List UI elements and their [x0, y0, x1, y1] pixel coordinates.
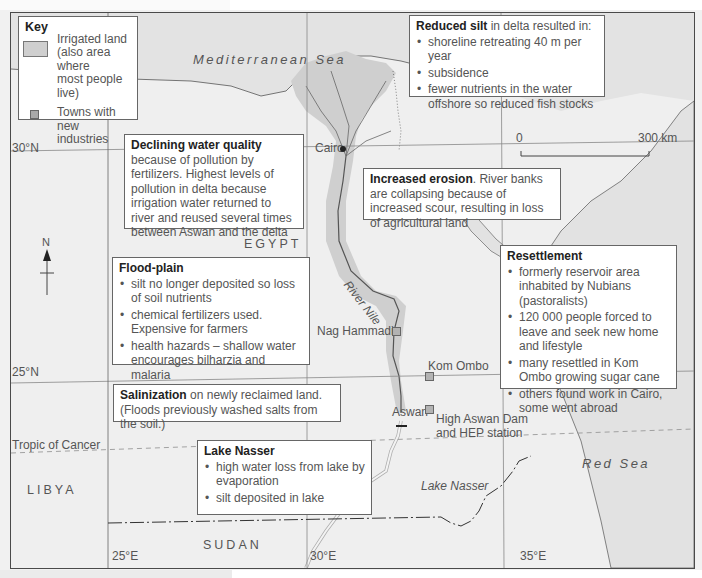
flood-plain-title: Flood-plain [119, 261, 184, 275]
scale-bar [521, 151, 649, 156]
key-label-towns: Towns with new industries [57, 106, 131, 147]
lon-25-label: 25°E [112, 549, 138, 563]
resettlement-box: Resettlement formerly reservoir area inh… [500, 245, 677, 389]
resettlement-title: Resettlement [507, 249, 582, 263]
page-top-margin [0, 0, 702, 10]
north-label: N [42, 236, 50, 248]
scale-end-label: 300 km [638, 131, 677, 145]
nag-hammadi-marker [392, 327, 401, 336]
list-item: many resettled in Kom Ombo growing sugar… [507, 356, 670, 385]
lat-25-label: 25°N [12, 365, 39, 379]
lat-30-label: 30°N [12, 141, 39, 155]
list-item: silt no longer deposited so loss of soil… [119, 277, 303, 306]
kom-ombo-label: Kom Ombo [428, 359, 489, 373]
page-bottom-margin [0, 570, 702, 578]
reduced-silt-box: Reduced silt in delta resulted in: shore… [409, 15, 605, 97]
salinization-title: Salinization [120, 388, 187, 402]
list-item: subsidence [416, 66, 598, 81]
nag-hammadi-label: Nag Hammadi [317, 324, 394, 338]
increased-erosion-box: Increased erosion. River banks are colla… [363, 168, 561, 220]
sudan-label: SUDAN [203, 538, 262, 552]
libya-label: LIBYA [27, 483, 77, 497]
tropic-label: Tropic of Cancer [12, 438, 100, 452]
lon-35-label: 35°E [520, 549, 546, 563]
increased-erosion-title: Increased erosion [370, 172, 473, 186]
salinization-box: Salinization on newly reclaimed land. (F… [113, 384, 341, 422]
list-item: others found work in Cairo, some went ab… [507, 387, 670, 416]
list-item: health hazards – shallow water encourage… [119, 339, 303, 383]
lake-nasser-title: Lake Nasser [204, 444, 275, 458]
cairo-dot [340, 146, 346, 152]
suez-canal [393, 71, 401, 151]
dam-label-line2: and HEP station [436, 426, 523, 440]
flood-plain-box: Flood-plain silt no longer deposited so … [112, 257, 310, 365]
list-item: shoreline retreating 40 m per year [416, 35, 598, 64]
list-item: silt deposited in lake [204, 491, 365, 506]
reduced-silt-title: Reduced silt [416, 19, 487, 33]
declining-water-quality-title: Declining water quality [131, 138, 262, 152]
lon-30-label: 30°E [310, 549, 336, 563]
list-item: formerly reservoir area inhabited by Nub… [507, 265, 670, 309]
kom-ombo-marker [425, 372, 434, 381]
lake-nasser-box: Lake Nasser high water loss from lake by… [197, 440, 372, 515]
lake-nasser-label: Lake Nasser [421, 479, 488, 493]
irrigated-land-swatch [23, 41, 48, 57]
list-item: fewer nutrients in the water offshore so… [416, 82, 598, 111]
map-key: Key Irrigated land (also area where most… [18, 16, 138, 120]
key-label-irrigated: Irrigated land (also area where most peo… [57, 33, 131, 101]
mediterranean-sea-label: Mediterranean Sea [193, 52, 346, 67]
town-square-swatch [30, 110, 39, 119]
scale-start-label: 0 [516, 131, 523, 145]
aswan-marker [425, 405, 434, 414]
list-item: 120 000 people forced to leave and seek … [507, 310, 670, 354]
list-item: high water loss from lake by evaporation [204, 460, 365, 489]
list-item: chemical fertilizers used. Expensive for… [119, 308, 303, 337]
aswan-label: Aswan [392, 405, 428, 419]
declining-water-quality-box: Declining water quality because of pollu… [124, 134, 304, 229]
north-arrow-head [43, 249, 51, 261]
red-sea-label: Red Sea [582, 456, 650, 471]
